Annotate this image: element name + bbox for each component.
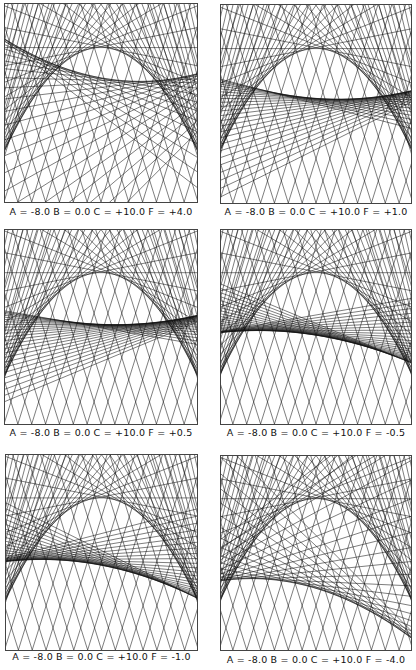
panel-caption-4: A = -8.0 B = 0.0 C = +10.0 F = -0.5 xyxy=(220,427,412,438)
panel-caption-6: A = -8.0 B = 0.0 C = +10.0 F = -4.0 xyxy=(220,654,412,665)
envelope-plot-4 xyxy=(220,229,412,425)
envelope-plot-6 xyxy=(220,455,412,651)
envelope-lines xyxy=(5,4,197,202)
envelope-lines xyxy=(221,5,411,203)
envelope-plot-3 xyxy=(4,229,198,425)
panel-caption-5: A = -8.0 B = 0.0 C = +10.0 F = -1.0 xyxy=(5,651,198,662)
envelope-lines xyxy=(221,230,411,424)
envelope-lines xyxy=(221,456,411,650)
panel-caption-2: A = -8.0 B = 0.0 C = +10.0 F = +1.0 xyxy=(220,206,412,217)
panel-caption-1: A = -8.0 B = 0.0 C = +10.0 F = +4.0 xyxy=(4,206,198,217)
envelope-plot-5 xyxy=(5,454,198,651)
envelope-plot-2 xyxy=(220,4,412,204)
envelope-plot-1 xyxy=(4,3,198,203)
panel-caption-3: A = -8.0 B = 0.0 C = +10.0 F = +0.5 xyxy=(4,427,198,438)
envelope-lines xyxy=(6,455,197,650)
envelope-lines xyxy=(5,230,197,424)
